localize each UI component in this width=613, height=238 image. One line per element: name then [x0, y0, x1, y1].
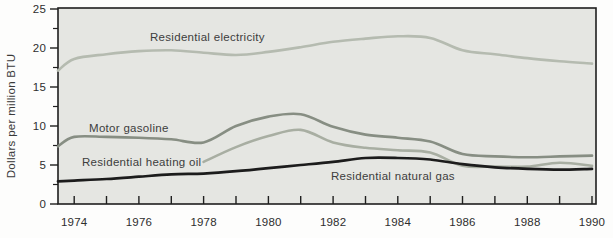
x-tick-label: 1978	[190, 216, 216, 228]
x-tick-label: 1976	[126, 216, 152, 228]
plot-background-group	[58, 8, 596, 204]
y-axis-title: Dollars per million BTU	[5, 54, 17, 178]
y-tick-label: 5	[39, 159, 46, 171]
x-tick-label: 1990	[579, 216, 605, 228]
x-tick-label: 1984	[385, 216, 412, 228]
series-label: Residential heating oil	[82, 156, 201, 168]
x-tick-label: 1980	[255, 216, 281, 228]
series-label: Motor gasoline	[89, 122, 169, 134]
x-tick-label: 1986	[449, 216, 475, 228]
y-tick-label: 0	[39, 198, 46, 210]
y-tick-label: 10	[33, 120, 46, 132]
y-tick-label: 20	[33, 42, 46, 54]
chart-canvas: 0510152025197419761978198019821984198619…	[0, 0, 613, 238]
series-label: Residential natural gas	[331, 170, 455, 182]
energy-prices-chart: 0510152025197419761978198019821984198619…	[0, 0, 613, 238]
x-tick-label: 1988	[514, 216, 540, 228]
x-tick-label: 1974	[61, 216, 88, 228]
series-label: Residential electricity	[150, 31, 265, 43]
y-tick-label: 25	[33, 3, 46, 15]
x-tick-label: 1982	[320, 216, 346, 228]
plot-background	[58, 8, 596, 204]
y-tick-label: 15	[33, 81, 46, 93]
